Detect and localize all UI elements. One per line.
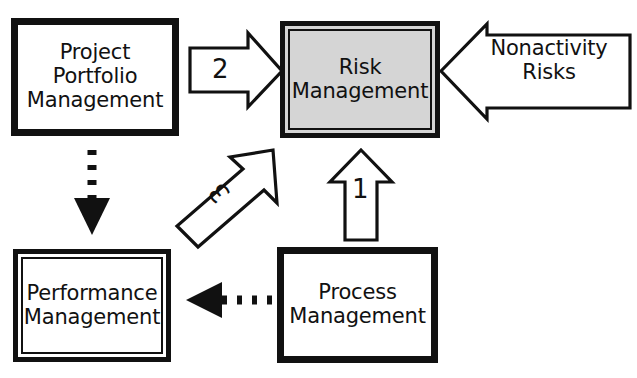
node-process-management[interactable]: Process Management [277,247,438,363]
node-project-portfolio-management-label: Project Portfolio Management [25,41,165,113]
arrow-1-label: 1 [352,176,369,202]
arrow-2-label: 2 [212,56,229,82]
node-performance-management[interactable]: Performance Management [13,249,171,362]
node-risk-management[interactable]: Risk Management [280,21,440,138]
node-risk-management-label: Risk Management [290,56,430,104]
diagram-canvas: Project Portfolio Management Risk Manage… [0,0,637,378]
nonactivity-risks-label: Nonactivity Risks [470,36,628,84]
dotted-arrow-proc-to-perf-shape [186,282,272,318]
dotted-arrow-ppm-to-perf-shape [74,150,110,235]
node-project-portfolio-management[interactable]: Project Portfolio Management [11,18,179,136]
node-process-management-label: Process Management [287,281,427,329]
arrow-2-shape [190,33,282,107]
arrow-3-shape [177,150,277,247]
node-performance-management-label: Performance Management [22,282,162,330]
